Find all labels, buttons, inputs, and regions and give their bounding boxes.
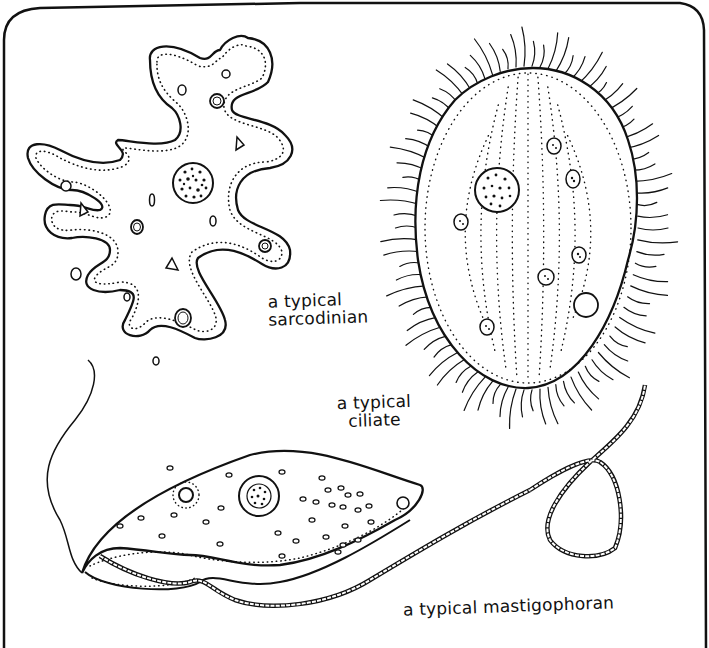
label-ciliate: a typical ciliate bbox=[336, 392, 412, 431]
mastigophoran-contractile-vacuole bbox=[397, 497, 409, 509]
label-ciliate-line2: ciliate bbox=[337, 410, 412, 431]
ciliate-outline bbox=[415, 68, 637, 388]
mastigophoran-kinetoplast bbox=[179, 488, 193, 502]
label-sarcodinian: a typical sarcodinian bbox=[267, 289, 368, 328]
ciliate-contractile-vacuole bbox=[574, 293, 598, 317]
mastigophoran-thin-filament bbox=[47, 360, 94, 573]
mastigophoran-flagellum-loop-inner bbox=[530, 385, 645, 556]
ciliate-paramecium bbox=[380, 27, 677, 428]
sarcodinian-amoeba bbox=[28, 36, 293, 365]
label-sarcodinian-line2: sarcodinian bbox=[268, 307, 369, 328]
